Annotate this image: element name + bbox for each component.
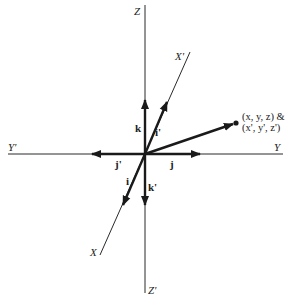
i-prime-label: i' <box>155 126 161 138</box>
y-axis-label: Y <box>274 141 282 153</box>
point-dot <box>233 120 238 125</box>
x-prime-axis-label: X' <box>174 50 185 62</box>
k-prime-label: k' <box>148 181 157 193</box>
i-label: i <box>126 175 129 187</box>
j-label: j <box>169 158 174 170</box>
z-prime-axis-label: Z' <box>148 284 157 296</box>
coordinate-axes-diagram: Z Z' Y Y' X' X k i' j' j i k' (x, y, z) … <box>0 0 290 298</box>
point-label-line2: (x', y', z') <box>242 122 281 134</box>
y-prime-axis-label: Y' <box>8 141 17 153</box>
k-label: k <box>135 122 142 134</box>
z-axis-label: Z <box>134 5 141 17</box>
j-prime-label: j' <box>114 158 122 170</box>
x-axis-label: X <box>89 246 98 258</box>
